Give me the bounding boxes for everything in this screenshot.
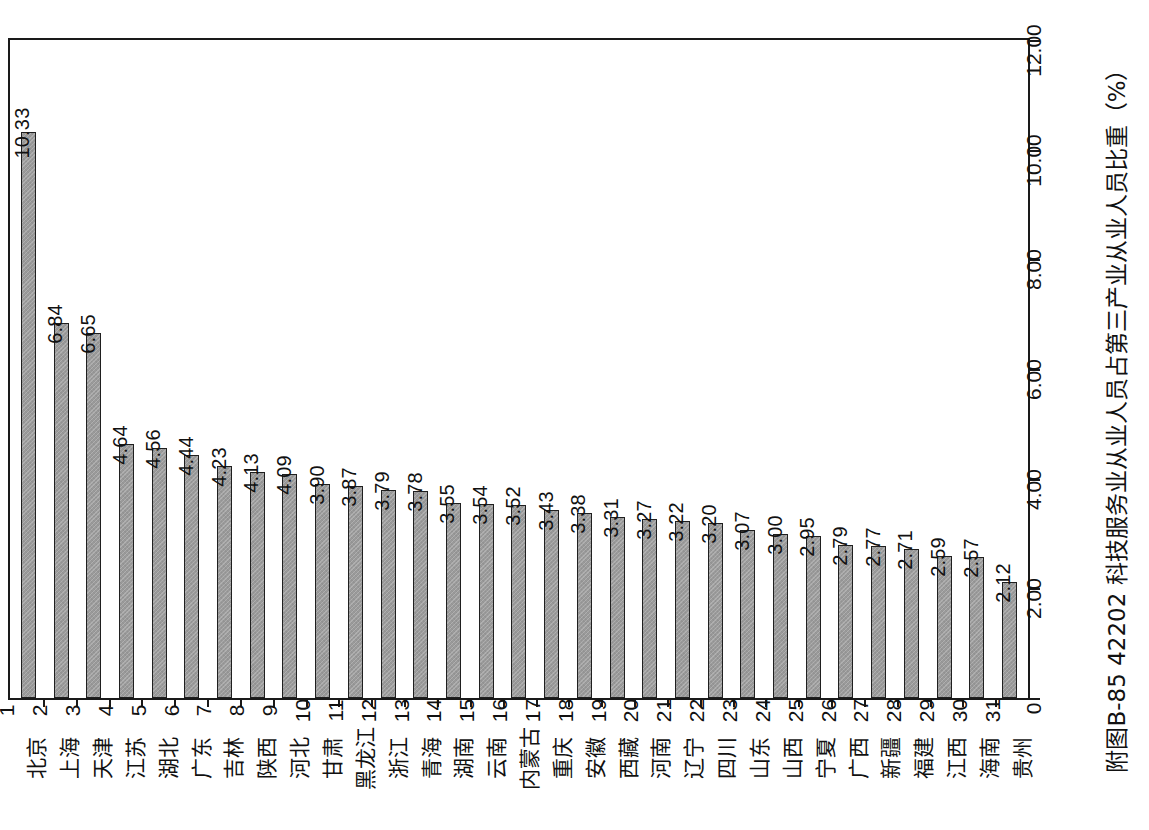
bar[interactable]: 2.77 bbox=[871, 546, 886, 698]
value-axis-tick-label: 2.00 bbox=[1023, 578, 1044, 619]
bar-slot: 2.79 bbox=[830, 40, 863, 698]
category-rank-label: 29 bbox=[916, 691, 937, 751]
bar[interactable]: 3.55 bbox=[446, 503, 461, 698]
category-rank-label: 12 bbox=[357, 691, 378, 751]
bar-slot: 10.33 bbox=[12, 40, 45, 698]
category-rank-label: 19 bbox=[587, 691, 608, 751]
bar[interactable]: 6.84 bbox=[54, 323, 69, 698]
category-rank-label: 17 bbox=[521, 691, 542, 751]
category-axis-labels: 1北京2上海3天津4江苏5湖北6广东7吉林8陕西9河北10甘肃11黑龙江12浙江… bbox=[8, 706, 1030, 830]
category-rank-label: 2 bbox=[29, 691, 50, 751]
bar-slot: 4.44 bbox=[176, 40, 209, 698]
bar[interactable]: 10.33 bbox=[21, 132, 36, 698]
category-rank-label: 30 bbox=[948, 691, 969, 751]
bar-slot: 3.27 bbox=[633, 40, 666, 698]
bar-slot: 4.64 bbox=[110, 40, 143, 698]
category-rank-label: 26 bbox=[817, 691, 838, 751]
category-label-slot: 31贵州 bbox=[995, 706, 1028, 830]
bar-slot: 2.95 bbox=[797, 40, 830, 698]
bar[interactable]: 3.38 bbox=[577, 513, 592, 698]
bar[interactable]: 2.95 bbox=[806, 536, 821, 698]
category-rank-label: 28 bbox=[883, 691, 904, 751]
bar[interactable]: 2.59 bbox=[937, 556, 952, 698]
bar-slot: 2.77 bbox=[862, 40, 895, 698]
bar-slot: 3.79 bbox=[372, 40, 405, 698]
category-rank-label: 3 bbox=[62, 691, 83, 751]
bar[interactable]: 4.56 bbox=[152, 448, 167, 698]
bar[interactable]: 3.52 bbox=[511, 505, 526, 698]
value-axis-tick bbox=[1030, 698, 1040, 700]
bar[interactable]: 4.13 bbox=[250, 472, 265, 698]
bar-slot: 4.23 bbox=[208, 40, 241, 698]
bar-slot: 2.57 bbox=[960, 40, 993, 698]
bar[interactable]: 3.54 bbox=[479, 504, 494, 698]
bar[interactable]: 6.65 bbox=[86, 333, 101, 698]
category-rank-label: 22 bbox=[686, 691, 707, 751]
bar[interactable]: 2.12 bbox=[1002, 582, 1017, 698]
category-rank-label: 15 bbox=[456, 691, 477, 751]
category-rank-label: 9 bbox=[259, 691, 280, 751]
bar-slot: 3.38 bbox=[568, 40, 601, 698]
bar-slot: 2.12 bbox=[993, 40, 1026, 698]
bar[interactable]: 3.07 bbox=[740, 530, 755, 698]
bar-chart-figure: 10.336.846.654.644.564.444.234.134.093.9… bbox=[0, 0, 1149, 830]
category-rank-label: 8 bbox=[226, 691, 247, 751]
figure-caption: 附图B-85 42202 科技服务业从业人员占第三产业从业人员比重（%） bbox=[1085, 0, 1149, 830]
value-axis-tick-label: 6.00 bbox=[1023, 359, 1044, 400]
bar[interactable]: 2.57 bbox=[969, 557, 984, 698]
category-rank-label: 18 bbox=[554, 691, 575, 751]
category-rank-label: 20 bbox=[620, 691, 641, 751]
bar-slot: 3.07 bbox=[731, 40, 764, 698]
bar[interactable]: 4.44 bbox=[184, 455, 199, 698]
bar[interactable]: 4.09 bbox=[282, 474, 297, 698]
category-rank-label: 25 bbox=[784, 691, 805, 751]
bar[interactable]: 3.87 bbox=[348, 486, 363, 698]
bar-slot: 3.52 bbox=[503, 40, 536, 698]
bar-slot: 3.20 bbox=[699, 40, 732, 698]
figure-caption-text: 附图B-85 42202 科技服务业从业人员占第三产业从业人员比重（%） bbox=[1106, 58, 1129, 773]
bar[interactable]: 3.20 bbox=[708, 523, 723, 698]
category-rank-label: 23 bbox=[718, 691, 739, 751]
category-rank-label: 11 bbox=[324, 691, 345, 751]
bar[interactable]: 2.71 bbox=[904, 549, 919, 698]
category-rank-label: 1 bbox=[0, 691, 17, 751]
bar[interactable]: 3.78 bbox=[413, 491, 428, 698]
bar-slot: 4.56 bbox=[143, 40, 176, 698]
value-axis-tick-label: 12.00 bbox=[1023, 24, 1044, 77]
bar[interactable]: 3.27 bbox=[642, 519, 657, 698]
category-rank-label: 16 bbox=[489, 691, 510, 751]
value-axis-tick-label: 4.00 bbox=[1023, 469, 1044, 510]
bar-slot: 3.54 bbox=[470, 40, 503, 698]
category-rank-label: 7 bbox=[193, 691, 214, 751]
value-axis-tick-label: 10.00 bbox=[1023, 134, 1044, 187]
bar[interactable]: 3.43 bbox=[544, 510, 559, 698]
bar[interactable]: 4.23 bbox=[217, 466, 232, 698]
bar-slot: 3.22 bbox=[666, 40, 699, 698]
bar[interactable]: 3.22 bbox=[675, 521, 690, 698]
bar-slot: 3.87 bbox=[339, 40, 372, 698]
bar-series: 10.336.846.654.644.564.444.234.134.093.9… bbox=[10, 40, 1028, 698]
bar-slot: 4.13 bbox=[241, 40, 274, 698]
bar[interactable]: 3.90 bbox=[315, 484, 330, 698]
bar-slot: 3.90 bbox=[306, 40, 339, 698]
bar[interactable]: 4.64 bbox=[119, 444, 134, 698]
category-name-label: 贵州 bbox=[1012, 737, 1034, 779]
bar-slot: 3.78 bbox=[404, 40, 437, 698]
bar[interactable]: 2.79 bbox=[838, 545, 853, 698]
plot-area: 10.336.846.654.644.564.444.234.134.093.9… bbox=[8, 38, 1030, 700]
category-rank-label: 6 bbox=[160, 691, 181, 751]
category-rank-label: 4 bbox=[94, 691, 115, 751]
category-rank-label: 31 bbox=[981, 691, 1002, 751]
bar-slot: 4.09 bbox=[274, 40, 307, 698]
category-rank-label: 27 bbox=[850, 691, 871, 751]
bar[interactable]: 3.79 bbox=[381, 490, 396, 698]
bar-slot: 3.31 bbox=[601, 40, 634, 698]
bar-slot: 2.59 bbox=[928, 40, 961, 698]
bar[interactable]: 3.00 bbox=[773, 534, 788, 699]
category-rank-label: 13 bbox=[390, 691, 411, 751]
value-axis: 02.004.006.008.0010.0012.00 bbox=[1030, 38, 1068, 700]
value-axis-tick-label: 0 bbox=[1023, 703, 1044, 715]
bar-slot: 2.71 bbox=[895, 40, 928, 698]
category-rank-label: 21 bbox=[653, 691, 674, 751]
bar[interactable]: 3.31 bbox=[610, 517, 625, 698]
